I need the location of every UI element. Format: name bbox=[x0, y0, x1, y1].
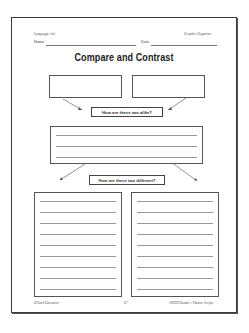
footer-publisher: Dillard Education bbox=[34, 301, 59, 305]
writing-line bbox=[137, 245, 213, 246]
writing-line bbox=[56, 135, 197, 136]
writing-line bbox=[40, 245, 116, 246]
different-left-box[interactable] bbox=[34, 192, 122, 297]
writing-line bbox=[137, 256, 213, 257]
writing-line bbox=[137, 289, 213, 290]
writing-line bbox=[40, 223, 116, 224]
writing-line bbox=[40, 201, 116, 202]
writing-line bbox=[56, 157, 197, 158]
writing-line bbox=[40, 278, 116, 279]
writing-line bbox=[137, 223, 213, 224]
writing-line bbox=[137, 278, 213, 279]
footer-page-number: 67 bbox=[124, 301, 127, 305]
item-one-box[interactable] bbox=[49, 75, 122, 98]
writing-line bbox=[40, 256, 116, 257]
writing-line bbox=[56, 146, 197, 147]
different-right-box[interactable] bbox=[131, 192, 219, 297]
writing-line bbox=[40, 267, 116, 268]
alike-prompt: How are these two alike? bbox=[91, 107, 163, 117]
item-two-box[interactable] bbox=[132, 75, 205, 98]
different-prompt: How are these two different? bbox=[89, 175, 165, 185]
writing-line bbox=[137, 201, 213, 202]
writing-line bbox=[40, 212, 116, 213]
writing-line bbox=[40, 234, 116, 235]
alike-answer-box[interactable] bbox=[50, 126, 203, 164]
footer-series: #XXXX Reader's Theater Scripts bbox=[169, 301, 213, 305]
writing-line bbox=[137, 267, 213, 268]
writing-line bbox=[137, 234, 213, 235]
writing-line bbox=[40, 289, 116, 290]
writing-line bbox=[137, 212, 213, 213]
